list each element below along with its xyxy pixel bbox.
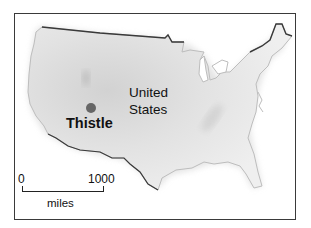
scale-bar [22,186,104,192]
country-label-line-2: States [129,101,168,118]
chesapeake-bay [258,92,263,112]
scale-start-label: 0 [18,173,25,185]
terrain-shade [82,70,90,86]
city-label: Thistle [66,116,113,131]
scale-end-label: 1000 [88,173,115,185]
country-label-line-1: United [129,84,168,101]
country-label: United States [129,84,168,118]
city-marker[interactable] [86,103,96,113]
scale-units-label: miles [47,198,74,210]
